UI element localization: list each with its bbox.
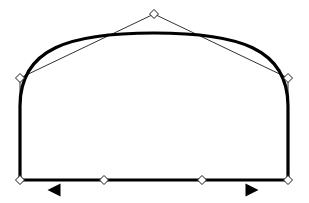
vector-drawing-surface[interactable]: [0, 0, 309, 203]
vector-editor-canvas[interactable]: Bezier path editing canvas: [0, 0, 309, 203]
canvas-background: [0, 0, 309, 203]
